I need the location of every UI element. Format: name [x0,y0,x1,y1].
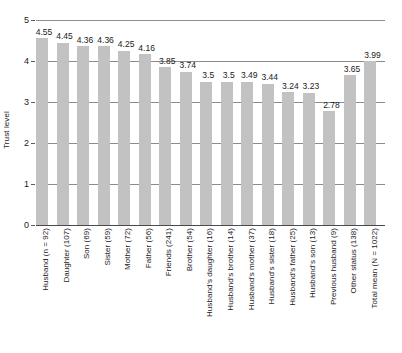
x-axis-label-slot: Father (56) [139,228,160,348]
bar[interactable] [159,67,171,225]
bar-value-label: 3.99 [360,51,384,60]
x-axis-label: Brother (54) [186,228,194,271]
y-tick-label: 0 [24,221,29,230]
x-axis-label: Total mean (N = 1022) [371,228,379,308]
y-tick-label: 5 [24,16,29,25]
bar[interactable] [344,75,356,225]
y-tick-label: 3 [24,98,29,107]
x-axis-label: Son (69) [83,228,91,259]
x-axis-label-slot: Husband's brother (14) [221,228,242,348]
x-axis-label-slot: Husband's son (13) [303,228,324,348]
bar[interactable] [262,84,274,225]
y-axis-title: Trust level [2,95,11,165]
bar[interactable] [364,61,376,225]
bar[interactable] [57,43,69,225]
bar[interactable] [282,92,294,225]
x-axis-label-slot: Son (69) [77,228,98,348]
x-axis-label: Daughter (107) [63,228,71,283]
bar[interactable] [139,54,151,225]
bar[interactable] [77,46,89,225]
x-axis-label-slot: Husband's daughter (16) [200,228,221,348]
bar-value-label: 3.74 [176,61,200,70]
y-tick-label: 4 [24,57,29,66]
x-axis-label: Mother (72) [124,228,132,270]
x-axis-label: Husband (n = 92) [42,228,50,291]
x-axis-label: Sister (59) [104,228,112,265]
x-axis-label-slot: Total mean (N = 1022) [364,228,385,348]
x-axis-label: Husband's mother (37) [248,228,256,310]
x-axis-label-slot: Husband's sister (18) [262,228,283,348]
x-axis-label: Previous husband (9) [330,228,338,305]
y-tick-label: 2 [24,139,29,148]
x-axis-label-slot: Daughter (107) [57,228,78,348]
y-axis-tick [31,20,35,21]
y-tick-label: 1 [24,180,29,189]
bar-value-label: 2.78 [319,101,343,110]
x-axis-label: Husband's brother (14) [227,228,235,311]
x-axis-label-slot: Husband's father (25) [282,228,303,348]
bar[interactable] [98,46,110,225]
x-axis-label: Husband's sister (18) [268,228,276,304]
x-axis-label: Husband's daughter (16) [206,228,214,317]
x-axis-labels-group: Husband (n = 92)Daughter (107)Son (69)Si… [36,228,385,348]
y-axis-tick [31,61,35,62]
x-axis-label: Friends (241) [165,228,173,276]
bar[interactable] [323,111,335,225]
x-axis-label-slot: Other status (138) [344,228,365,348]
x-axis-label-slot: Previous husband (9) [323,228,344,348]
bar-value-label: 3.23 [299,82,323,91]
bar[interactable] [180,72,192,225]
bar[interactable] [118,51,130,225]
bar[interactable] [241,82,253,225]
y-axis-tick [31,102,35,103]
y-axis-tick [31,143,35,144]
x-axis-label-slot: Husband's mother (37) [241,228,262,348]
x-axis-label: Other status (138) [350,228,358,293]
x-axis-label-slot: Husband (n = 92) [36,228,57,348]
x-axis-label-slot: Brother (54) [180,228,201,348]
plot-area: 012345 4.554.454.364.364.254.163.853.743… [36,20,385,225]
bar-value-label: 4.16 [135,44,159,53]
x-axis-label: Husband's father (25) [289,228,297,306]
x-axis-label-slot: Friends (241) [159,228,180,348]
bar[interactable] [303,93,315,225]
bar-value-label: 3.65 [340,65,364,74]
y-axis-tick [31,184,35,185]
bar[interactable] [221,82,233,226]
bar-chart-figure: Trust level 012345 4.554.454.364.364.254… [0,0,402,353]
bar[interactable] [36,38,48,225]
x-axis-label: Father (56) [145,228,153,268]
bar[interactable] [200,82,212,226]
x-axis-label-slot: Sister (59) [98,228,119,348]
bars-group: 4.554.454.364.364.254.163.853.743.53.53.… [36,20,385,225]
x-axis-label: Husband's son (13) [309,228,317,298]
x-axis-line [36,225,385,226]
x-axis-label-slot: Mother (72) [118,228,139,348]
y-axis-tick [31,225,35,226]
